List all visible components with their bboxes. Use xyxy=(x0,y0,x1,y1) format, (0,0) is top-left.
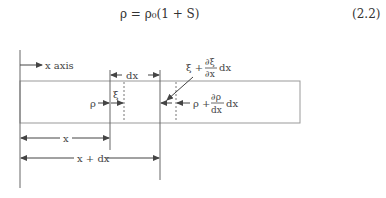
xi-plus-denominator: ∂x xyxy=(205,69,215,79)
xi-plus-suffix: dx xyxy=(219,62,231,73)
xi-plus-prefix: ξ + xyxy=(186,62,203,73)
x-dim-label: x xyxy=(63,133,69,144)
dx-label: dx xyxy=(126,70,138,81)
rho-plus-numerator: ∂ρ xyxy=(211,92,221,102)
x-plus-dx-label: x + dx xyxy=(77,153,110,164)
rho-plus-suffix: dx xyxy=(226,98,238,109)
wave-element-diagram: x axis dx ρ ξ ξ + ∂ξ ∂x dx ρ + ∂ρ dx dx … xyxy=(0,0,386,198)
rho-label: ρ xyxy=(90,98,96,109)
x-axis-label: x axis xyxy=(45,60,74,71)
xi-plus-pointer xyxy=(167,77,193,100)
xi-label: ξ xyxy=(113,89,119,100)
xi-plus-numerator: ∂ξ xyxy=(205,57,215,67)
rho-plus-prefix: ρ + xyxy=(193,98,210,109)
rho-plus-denominator: dx xyxy=(211,105,222,115)
